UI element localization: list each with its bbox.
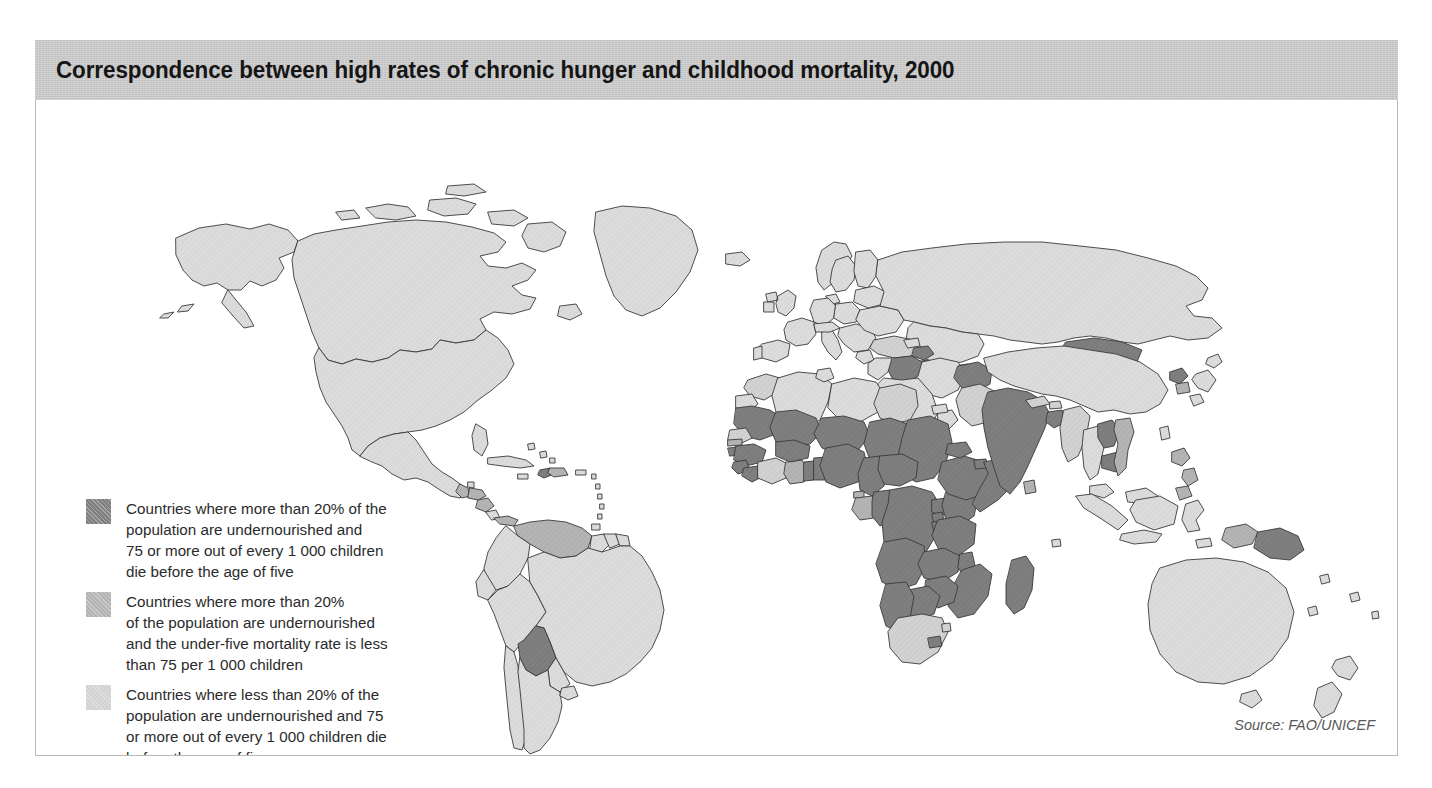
title-bar: Correspondence between high rates of chr… [35,40,1398,100]
country-alaska-panhandle [222,290,254,328]
legend-item: Countries where less than 20% of the pop… [86,684,446,755]
country-new-zealand [1314,656,1358,718]
lesser-antilles [592,474,604,519]
map-legend: Countries where more than 20% of the pop… [86,498,446,755]
country-cuba [488,456,534,468]
trinidad [592,524,600,530]
baffin-island [522,222,566,252]
country-switzerland-austria [814,322,840,332]
country-central-african-republic [878,454,918,486]
country-greenland [594,206,698,316]
country-panama [494,516,518,526]
legend-swatch-high-hunger-high-mortality [86,499,111,524]
country-nicaragua [476,498,494,512]
country-belize [468,482,474,488]
country-philippines [1172,448,1198,500]
country-indonesia-sulawesi [1182,500,1204,532]
legend-swatch-high-hunger-low-mortality [86,592,111,617]
country-gambia [728,439,742,446]
country-finland [854,250,878,288]
country-indonesia-borneo [1130,496,1178,530]
country-portugal [754,346,762,360]
pacific-islands [1308,574,1379,619]
country-tasmania [1240,690,1262,708]
country-lesotho [928,636,942,648]
country-indonesia-sumatra [1076,494,1128,530]
legend-item: Countries where more than 20% of the pop… [86,591,446,675]
canada-arctic-islands [336,184,528,226]
legend-swatch-low-hunger-high-mortality [86,685,111,710]
country-eritrea [946,442,972,458]
country-swaziland [942,623,951,632]
country-togo [804,461,814,481]
country-cote-divoire [758,458,788,484]
country-honduras [468,488,486,500]
indian-ocean-islands [1052,539,1061,547]
country-vietnam [1114,418,1134,476]
country-egypt [874,384,918,424]
country-jamaica [518,474,528,479]
legend-item: Countries where more than 20% of the pop… [86,498,446,582]
country-north-korea [1170,368,1188,384]
florida [472,424,488,456]
country-papua-new-guinea [1254,528,1304,560]
country-sri-lanka [1024,480,1036,494]
legend-label: Countries where more than 20% of the pop… [126,591,388,675]
newfoundland [558,304,582,320]
country-alaska [176,224,298,290]
country-australia [1148,558,1294,684]
legend-label: Countries where less than 20% of the pop… [126,684,387,755]
country-japan [1190,354,1222,406]
country-france [784,318,816,346]
country-indonesia-papua [1222,524,1258,548]
figure-root: Correspondence between high rates of chr… [0,0,1432,788]
country-uruguay [560,686,578,700]
aleutian-islands [160,304,194,318]
country-puerto-rico [576,470,586,475]
country-indonesia-java [1120,530,1162,544]
country-iceland [726,252,750,266]
country-taiwan [1160,426,1170,440]
page-title: Correspondence between high rates of chr… [56,57,954,84]
country-south-korea [1176,382,1190,394]
country-madagascar [1006,556,1034,614]
country-mexico [360,432,466,498]
country-uae-qatar [932,404,948,414]
country-zambia [918,548,960,582]
country-syria-jordan [868,358,892,380]
bahamas [528,443,555,463]
source-attribution: Source: FAO/UNICEF [1234,717,1375,733]
country-ireland [764,302,774,312]
country-timor [1196,538,1212,548]
country-bhutan [1050,401,1062,409]
legend-label: Countries where more than 20% of the pop… [126,498,387,582]
map-container: Countries where more than 20% of the pop… [36,100,1397,755]
